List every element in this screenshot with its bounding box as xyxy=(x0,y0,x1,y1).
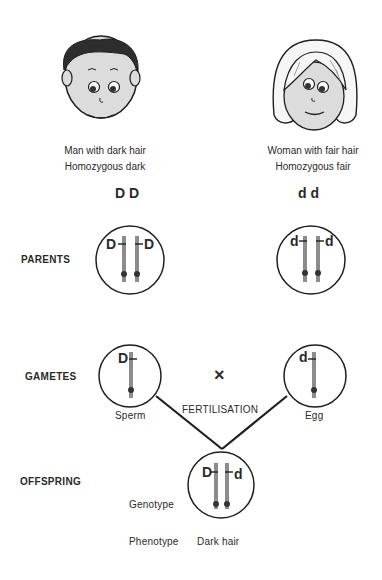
phenotype-value: Dark hair xyxy=(197,536,239,547)
man-face-icon xyxy=(62,36,140,118)
sperm-allele: D xyxy=(118,350,128,366)
genotype-label: Genotype xyxy=(129,499,174,510)
phenotype-label: Phenotype xyxy=(129,536,179,547)
offspring-cell-icon xyxy=(188,452,254,518)
father-zygosity: Homozygous dark xyxy=(40,159,170,175)
father-caption: Man with dark hair Homozygous dark xyxy=(40,143,170,175)
row-label-parents: PARENTS xyxy=(21,254,70,265)
mother-allele-1: d xyxy=(290,233,299,249)
offspring-allele-2: d xyxy=(234,466,243,482)
egg-allele: d xyxy=(299,349,308,365)
father-description: Man with dark hair xyxy=(40,143,170,159)
row-label-gametes: GAMETES xyxy=(25,371,77,382)
mother-genotype: dd xyxy=(298,185,323,201)
offspring-allele-1: D xyxy=(202,464,212,480)
fertilisation-label: FERTILISATION xyxy=(182,404,258,415)
mother-allele-2: d xyxy=(325,233,334,249)
egg-cell-icon xyxy=(284,345,346,407)
egg-label: Egg xyxy=(305,410,323,421)
mother-cell-icon xyxy=(277,226,345,294)
sperm-label: Sperm xyxy=(115,410,145,421)
sperm-cell-icon xyxy=(99,345,161,407)
mother-zygosity: Homozygous fair xyxy=(248,159,378,175)
mother-caption: Woman with fair hair Homozygous fair xyxy=(248,143,378,175)
cross-symbol: × xyxy=(214,365,225,386)
mother-description: Woman with fair hair xyxy=(248,143,378,159)
row-label-offspring: OFFSPRING xyxy=(20,476,81,487)
woman-face-icon xyxy=(273,40,357,130)
father-allele-1: D xyxy=(106,236,116,252)
father-genotype: DD xyxy=(115,185,143,201)
father-allele-2: D xyxy=(144,236,154,252)
diagram-graphics xyxy=(0,0,382,580)
